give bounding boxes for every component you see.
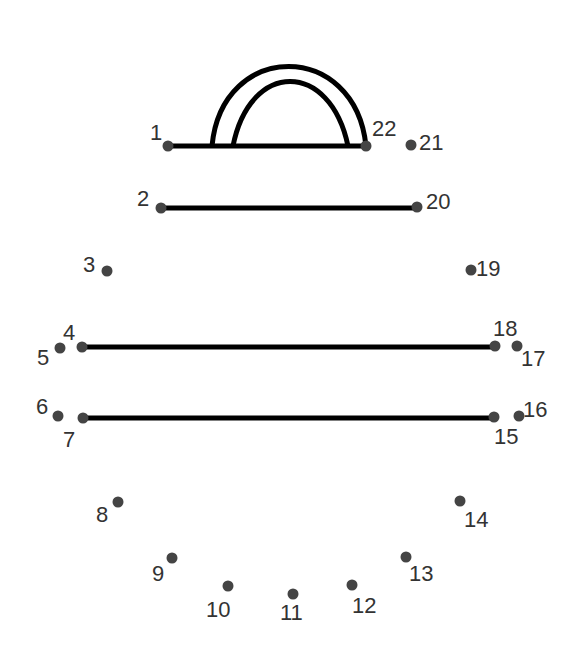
dot-11[interactable]: 11 <box>280 589 303 626</box>
dot-number-label: 6 <box>36 394 48 419</box>
dot-number-label: 19 <box>476 256 500 281</box>
dot-1[interactable]: 1 <box>150 120 174 152</box>
dot-number-label: 21 <box>419 130 443 155</box>
dot-7[interactable]: 7 <box>63 413 89 453</box>
dot-number-label: 8 <box>96 502 108 527</box>
dot-number-label: 18 <box>493 316 517 341</box>
dot-number-label: 16 <box>523 397 547 422</box>
dot-marker[interactable] <box>167 553 178 564</box>
dot-marker[interactable] <box>406 140 417 151</box>
dot-number-label: 11 <box>280 600 303 625</box>
dot-3[interactable]: 3 <box>83 252 113 277</box>
numbered-dots: 12345678910111213141516171819202122 <box>36 116 547 625</box>
dot-number-label: 7 <box>63 427 75 452</box>
handle-arches <box>212 67 366 147</box>
dot-5[interactable]: 5 <box>37 343 66 371</box>
dot-marker[interactable] <box>288 589 299 600</box>
dot-8[interactable]: 8 <box>96 497 124 528</box>
dot-2[interactable]: 2 <box>137 186 167 214</box>
dot-4[interactable]: 4 <box>63 320 88 353</box>
dot-number-label: 13 <box>409 561 433 586</box>
dot-number-label: 14 <box>464 507 488 532</box>
dot-number-label: 1 <box>150 120 162 145</box>
dot-number-label: 15 <box>494 424 518 449</box>
dot-number-label: 10 <box>206 597 230 622</box>
dot-9[interactable]: 9 <box>152 553 178 587</box>
dot-19[interactable]: 19 <box>466 256 501 281</box>
dot-marker[interactable] <box>223 581 234 592</box>
dot-marker[interactable] <box>163 141 174 152</box>
dot-number-label: 20 <box>426 189 450 214</box>
dot-16[interactable]: 16 <box>514 397 548 422</box>
dot-marker[interactable] <box>156 203 167 214</box>
dot-number-label: 17 <box>521 346 545 371</box>
dot-12[interactable]: 12 <box>347 580 377 619</box>
dot-6[interactable]: 6 <box>36 394 64 422</box>
dot-marker[interactable] <box>466 265 477 276</box>
dot-number-label: 22 <box>372 116 396 141</box>
dot-number-label: 5 <box>37 345 49 370</box>
dot-number-label: 12 <box>352 593 376 618</box>
dot-marker[interactable] <box>113 497 124 508</box>
dot-17[interactable]: 17 <box>512 341 546 372</box>
dot-marker[interactable] <box>78 413 89 424</box>
dot-marker[interactable] <box>489 412 500 423</box>
dot-10[interactable]: 10 <box>206 581 234 623</box>
dot-marker[interactable] <box>77 342 88 353</box>
dot-marker[interactable] <box>347 580 358 591</box>
dot-number-label: 3 <box>83 252 95 277</box>
dot-marker[interactable] <box>55 343 66 354</box>
dot-marker[interactable] <box>53 411 64 422</box>
arch-curve <box>233 82 348 147</box>
dot-marker[interactable] <box>455 496 466 507</box>
dot-number-label: 4 <box>63 320 75 345</box>
dot-number-label: 2 <box>137 186 149 211</box>
dot-13[interactable]: 13 <box>401 552 434 587</box>
dot-marker[interactable] <box>102 266 113 277</box>
dot-marker[interactable] <box>412 202 423 213</box>
dot-number-label: 9 <box>152 561 164 586</box>
dot-marker[interactable] <box>361 141 372 152</box>
dot-marker[interactable] <box>490 341 501 352</box>
dot-20[interactable]: 20 <box>412 189 451 214</box>
dot-14[interactable]: 14 <box>455 496 489 533</box>
connect-the-dots-worksheet: 12345678910111213141516171819202122 <box>0 0 582 668</box>
dot-21[interactable]: 21 <box>406 130 444 155</box>
